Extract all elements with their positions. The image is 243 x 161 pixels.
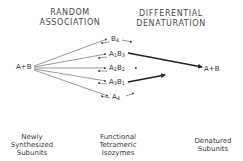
- isozyme-b4-sub: 4: [116, 37, 119, 43]
- isozyme-a2b2: A2B2: [109, 64, 125, 73]
- product-node-a-plus-b: A+B: [204, 65, 219, 73]
- footer-left-line3: Subunits: [2, 149, 62, 157]
- footer-middle-line3: Isozymes: [88, 149, 148, 157]
- isozyme-a3b1-b-sub: 1: [122, 80, 125, 86]
- isozyme-a4: A4: [112, 93, 120, 102]
- isozyme-a1b3-a-sub: 1: [114, 52, 117, 58]
- footer-newly-synthesized-subunits: Newly Synthesized Subunits: [2, 133, 62, 157]
- isozyme-a3b1-a-sub: 3: [114, 80, 117, 86]
- footer-middle-line1: Functional: [88, 133, 148, 141]
- footer-right-line1: Denatured: [183, 137, 243, 145]
- isozyme-a1b3: A1B3: [109, 50, 125, 59]
- footer-middle-line2: Tetrameric: [88, 141, 148, 149]
- footer-functional-tetrameric-isozymes: Functional Tetrameric Isozymes: [88, 133, 148, 157]
- footer-right-line2: Subunits: [183, 145, 243, 153]
- isozyme-a4-sub: 4: [117, 95, 120, 101]
- isozyme-a3b1: A3B1: [109, 78, 125, 87]
- source-node-a-plus-b: A+B: [16, 63, 31, 71]
- footer-left-line1: Newly: [2, 133, 62, 141]
- footer-left-line2: Synthesized: [2, 141, 62, 149]
- isozyme-a2b2-b-sub: 2: [122, 66, 125, 72]
- isozyme-a2b2-a-sub: 2: [114, 66, 117, 72]
- isozyme-a1b3-b-sub: 3: [122, 52, 125, 58]
- footer-denatured-subunits: Denatured Subunits: [183, 137, 243, 153]
- isozyme-b4: B4: [111, 35, 119, 44]
